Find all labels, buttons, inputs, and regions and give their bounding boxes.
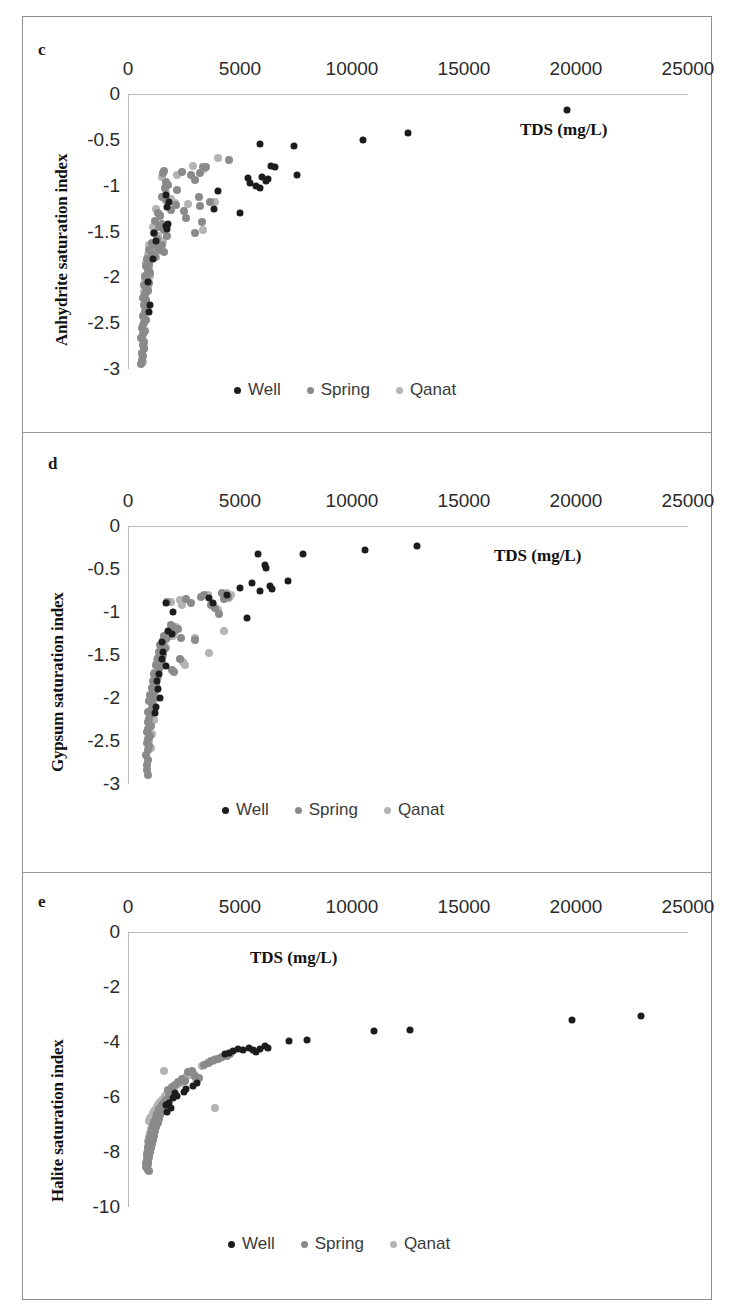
y-axis-tick-label: -2.5	[70, 730, 120, 752]
y-axis-tick-label: -0.5	[70, 558, 120, 580]
y-axis-tick-label: -10	[70, 1196, 120, 1218]
x-axis-tick-label: 0	[123, 58, 134, 80]
x-axis-tick-label: 25000	[662, 490, 715, 512]
x-axis-tick-label: 5000	[219, 896, 261, 918]
legend-item-qanat[interactable]: Qanat	[396, 380, 456, 400]
panel-e: e Halite saturation index TDS (mg/L) Wel…	[22, 872, 712, 1300]
legend-item-spring[interactable]: Spring	[295, 800, 358, 820]
y-axis-tick-label: -2	[70, 976, 120, 998]
legend-marker-spring-icon	[301, 1241, 308, 1248]
legend-label: Qanat	[398, 800, 444, 820]
panel-letter-e: e	[38, 892, 46, 912]
panel-c-y-axis-label: Anhydrite saturation index	[52, 154, 72, 346]
legend-label: Qanat	[410, 380, 456, 400]
y-axis-tick-label: -2	[70, 266, 120, 288]
legend-label: Qanat	[404, 1234, 450, 1254]
x-axis-tick-label: 10000	[326, 58, 379, 80]
legend-label: Spring	[321, 380, 370, 400]
x-axis-tick-label: 15000	[438, 58, 491, 80]
y-axis-tick-label: 0	[70, 83, 120, 105]
x-axis-tick-label: 25000	[662, 58, 715, 80]
panel-letter-c: c	[38, 40, 46, 60]
y-axis-tick-label: -8	[70, 1141, 120, 1163]
x-axis-tick-label: 25000	[662, 896, 715, 918]
panel-d-x-axis-title: TDS (mg/L)	[494, 546, 581, 566]
legend-item-spring[interactable]: Spring	[307, 380, 370, 400]
y-axis-tick-label: 0	[70, 515, 120, 537]
x-axis-tick-label: 0	[123, 896, 134, 918]
x-axis-tick-label: 10000	[326, 490, 379, 512]
y-axis-tick-label: -4	[70, 1031, 120, 1053]
legend-marker-well-icon	[222, 807, 229, 814]
x-axis-tick-label: 5000	[219, 58, 261, 80]
legend-marker-qanat-icon	[384, 807, 391, 814]
panel-d: d Gypsum saturation index TDS (mg/L) Wel…	[22, 432, 712, 872]
panel-e-legend: WellSpringQanat	[228, 1234, 450, 1254]
legend-item-well[interactable]: Well	[222, 800, 269, 820]
y-axis-tick-label: -1	[70, 175, 120, 197]
panel-c-x-axis-title: TDS (mg/L)	[520, 120, 607, 140]
legend-marker-spring-icon	[307, 387, 314, 394]
x-axis-tick-label: 20000	[550, 896, 603, 918]
x-axis-tick-label: 15000	[438, 490, 491, 512]
legend-item-qanat[interactable]: Qanat	[384, 800, 444, 820]
legend-marker-well-icon	[234, 387, 241, 394]
panel-c: c Anhydrite saturation index TDS (mg/L) …	[22, 16, 712, 432]
panel-e-y-axis-label: Halite saturation index	[48, 1039, 68, 1202]
x-axis-tick-label: 15000	[438, 896, 491, 918]
legend-label: Spring	[315, 1234, 364, 1254]
x-axis-tick-label: 5000	[219, 490, 261, 512]
legend-item-qanat[interactable]: Qanat	[390, 1234, 450, 1254]
legend-label: Well	[248, 380, 281, 400]
legend-marker-qanat-icon	[390, 1241, 397, 1248]
legend-marker-well-icon	[228, 1241, 235, 1248]
panel-e-plot-area	[128, 932, 688, 1207]
panel-d-y-axis-label: Gypsum saturation index	[48, 592, 68, 772]
legend-item-well[interactable]: Well	[234, 380, 281, 400]
x-axis-tick-label: 20000	[550, 490, 603, 512]
panel-e-x-axis-title: TDS (mg/L)	[250, 948, 337, 968]
y-axis-tick-label: -2	[70, 687, 120, 709]
panel-d-plot-area	[128, 526, 688, 784]
legend-marker-qanat-icon	[396, 387, 403, 394]
legend-label: Well	[242, 1234, 275, 1254]
y-axis-tick-label: -6	[70, 1086, 120, 1108]
y-axis-tick-label: -3	[70, 773, 120, 795]
x-axis-tick-label: 10000	[326, 896, 379, 918]
y-axis-tick-label: -1.5	[70, 221, 120, 243]
panel-c-legend: WellSpringQanat	[234, 380, 456, 400]
legend-item-well[interactable]: Well	[228, 1234, 275, 1254]
y-axis-tick-label: -1.5	[70, 644, 120, 666]
legend-item-spring[interactable]: Spring	[301, 1234, 364, 1254]
x-axis-tick-label: 20000	[550, 58, 603, 80]
legend-label: Spring	[309, 800, 358, 820]
y-axis-tick-label: -2.5	[70, 312, 120, 334]
figure-root: c Anhydrite saturation index TDS (mg/L) …	[0, 0, 733, 1316]
legend-label: Well	[236, 800, 269, 820]
y-axis-tick-label: -1	[70, 601, 120, 623]
panel-letter-d: d	[48, 454, 57, 474]
y-axis-tick-label: -0.5	[70, 129, 120, 151]
panel-d-legend: WellSpringQanat	[222, 800, 444, 820]
legend-marker-spring-icon	[295, 807, 302, 814]
y-axis-tick-label: -3	[70, 358, 120, 380]
x-axis-tick-label: 0	[123, 490, 134, 512]
y-axis-tick-label: 0	[70, 921, 120, 943]
